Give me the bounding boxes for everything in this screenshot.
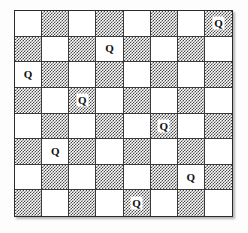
- board-square-r2-c3[interactable]: [69, 37, 96, 63]
- board-square-r7-c4[interactable]: [96, 165, 123, 191]
- board-square-r1-c3[interactable]: [69, 11, 96, 37]
- board-square-r8-c1[interactable]: [15, 190, 42, 216]
- board-square-r4-c1[interactable]: [15, 88, 42, 114]
- board-square-r1-c1[interactable]: [15, 11, 42, 37]
- board-square-r3-c8[interactable]: [205, 62, 232, 88]
- board-square-r7-c5[interactable]: [124, 165, 151, 191]
- chessboard-frame: QQQQQQQQ: [14, 10, 233, 217]
- board-square-r6-c7[interactable]: [178, 139, 205, 165]
- board-square-r1-c2[interactable]: [42, 11, 69, 37]
- board-square-r2-c1[interactable]: [15, 37, 42, 63]
- board-square-r6-c2[interactable]: Q: [42, 139, 69, 165]
- board-square-r7-c7[interactable]: Q: [178, 165, 205, 191]
- board-square-r3-c5[interactable]: [124, 62, 151, 88]
- board-square-r1-c4[interactable]: [96, 11, 123, 37]
- board-square-r1-c8[interactable]: Q: [205, 11, 232, 37]
- board-square-r2-c2[interactable]: [42, 37, 69, 63]
- board-square-r3-c3[interactable]: [69, 62, 96, 88]
- board-square-r3-c1[interactable]: Q: [15, 62, 42, 88]
- chessboard-grid: QQQQQQQQ: [15, 11, 232, 216]
- board-square-r4-c6[interactable]: [151, 88, 178, 114]
- board-square-r5-c1[interactable]: [15, 114, 42, 140]
- board-square-r7-c8[interactable]: [205, 165, 232, 191]
- queen-icon[interactable]: Q: [51, 146, 60, 157]
- board-square-r5-c5[interactable]: [124, 114, 151, 140]
- chessboard-figure: Eight queens puzzle solution board QQQQQ…: [0, 0, 248, 233]
- board-square-r3-c7[interactable]: [178, 62, 205, 88]
- board-square-r4-c4[interactable]: [96, 88, 123, 114]
- board-square-r5-c6[interactable]: Q: [151, 114, 178, 140]
- queen-icon[interactable]: Q: [105, 43, 114, 54]
- board-square-r4-c3[interactable]: Q: [69, 88, 96, 114]
- queen-icon[interactable]: Q: [158, 120, 170, 132]
- board-square-r5-c3[interactable]: [69, 114, 96, 140]
- page-title: Eight queens puzzle solution board: [0, 21, 1, 22]
- board-square-r6-c4[interactable]: [96, 139, 123, 165]
- board-square-r3-c4[interactable]: [96, 62, 123, 88]
- board-square-r2-c5[interactable]: [124, 37, 151, 63]
- board-square-r1-c6[interactable]: [151, 11, 178, 37]
- board-square-r8-c4[interactable]: [96, 190, 123, 216]
- board-square-r2-c6[interactable]: [151, 37, 178, 63]
- queen-icon[interactable]: Q: [24, 69, 33, 80]
- board-square-r4-c8[interactable]: [205, 88, 232, 114]
- board-square-r3-c6[interactable]: [151, 62, 178, 88]
- board-square-r5-c7[interactable]: [178, 114, 205, 140]
- queen-icon[interactable]: Q: [187, 172, 196, 183]
- board-square-r8-c7[interactable]: [178, 190, 205, 216]
- queen-icon[interactable]: Q: [77, 94, 89, 106]
- board-square-r5-c8[interactable]: [205, 114, 232, 140]
- board-square-r8-c5[interactable]: Q: [124, 190, 151, 216]
- board-square-r7-c3[interactable]: [69, 165, 96, 191]
- board-square-r6-c6[interactable]: [151, 139, 178, 165]
- board-square-r6-c3[interactable]: [69, 139, 96, 165]
- board-square-r5-c4[interactable]: [96, 114, 123, 140]
- board-square-r4-c7[interactable]: [178, 88, 205, 114]
- board-square-r2-c4[interactable]: Q: [96, 37, 123, 63]
- board-square-r8-c8[interactable]: [205, 190, 232, 216]
- board-square-r6-c8[interactable]: [205, 139, 232, 165]
- board-square-r8-c2[interactable]: [42, 190, 69, 216]
- board-square-r4-c5[interactable]: [124, 88, 151, 114]
- board-square-r2-c7[interactable]: [178, 37, 205, 63]
- board-square-r7-c6[interactable]: [151, 165, 178, 191]
- board-square-r3-c2[interactable]: [42, 62, 69, 88]
- queen-icon[interactable]: Q: [213, 17, 225, 29]
- board-square-r1-c7[interactable]: [178, 11, 205, 37]
- board-square-r7-c1[interactable]: [15, 165, 42, 191]
- board-square-r6-c1[interactable]: [15, 139, 42, 165]
- board-square-r8-c6[interactable]: [151, 190, 178, 216]
- queen-icon[interactable]: Q: [131, 197, 143, 209]
- board-square-r7-c2[interactable]: [42, 165, 69, 191]
- board-square-r1-c5[interactable]: [124, 11, 151, 37]
- board-square-r8-c3[interactable]: [69, 190, 96, 216]
- board-square-r4-c2[interactable]: [42, 88, 69, 114]
- board-square-r2-c8[interactable]: [205, 37, 232, 63]
- board-square-r6-c5[interactable]: [124, 139, 151, 165]
- board-square-r5-c2[interactable]: [42, 114, 69, 140]
